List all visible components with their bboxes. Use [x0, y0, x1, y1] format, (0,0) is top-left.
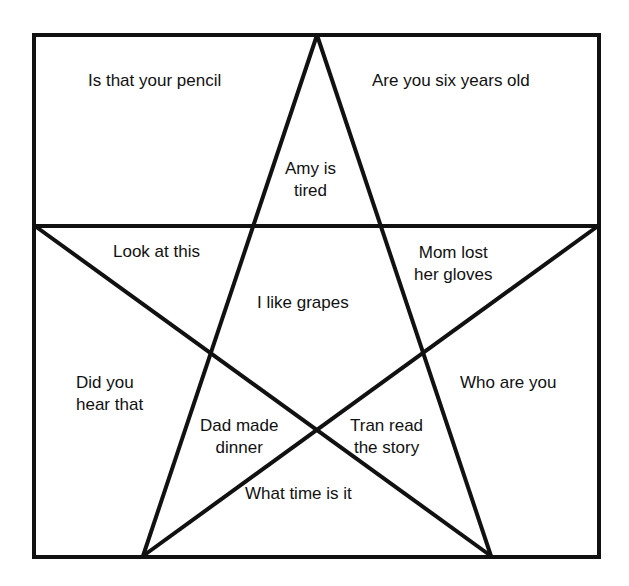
region-label-top-right: Are you six years old: [372, 70, 530, 92]
region-label-left-side: Did you hear that: [76, 372, 143, 416]
region-label-upper-left: Look at this: [113, 241, 200, 263]
region-label-lower-right: Tran read the story: [350, 415, 423, 459]
region-label-center: I like grapes: [257, 292, 349, 314]
region-label-top-left: Is that your pencil: [88, 70, 221, 92]
region-label-bottom: What time is it: [245, 483, 352, 505]
region-label-right-side: Who are you: [460, 372, 556, 394]
region-label-top-point: Amy is tired: [285, 158, 336, 202]
region-label-lower-left: Dad made dinner: [200, 415, 278, 459]
region-label-upper-right: Mom lost her gloves: [414, 242, 492, 286]
